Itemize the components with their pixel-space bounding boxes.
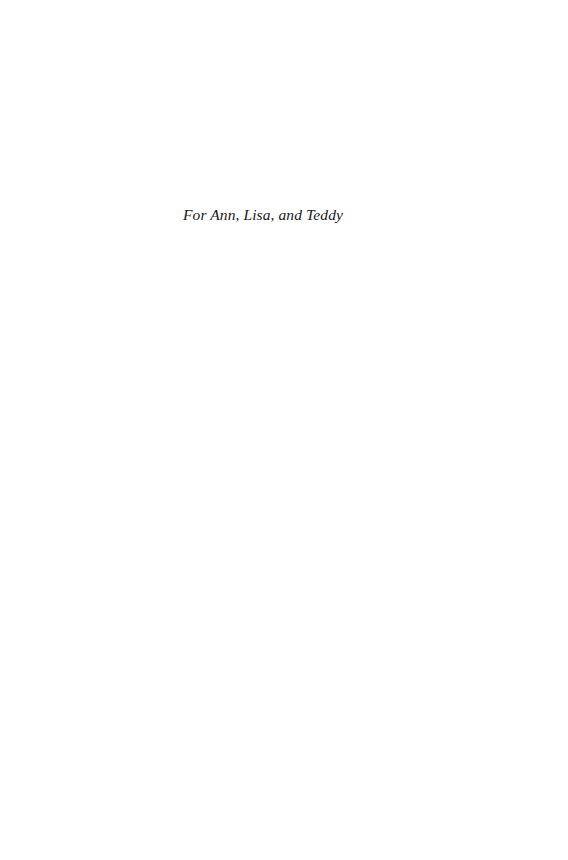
book-page: For Ann, Lisa, and Teddy xyxy=(0,0,568,860)
dedication-text: For Ann, Lisa, and Teddy xyxy=(183,205,343,225)
